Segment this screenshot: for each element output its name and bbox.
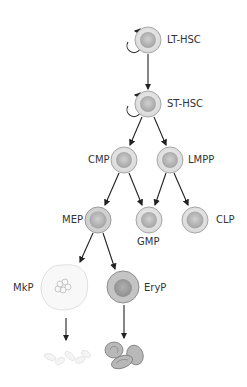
label-gmp: GMP xyxy=(137,236,159,248)
label-mkp: MkP xyxy=(13,282,33,294)
label-cmp: CMP xyxy=(88,154,110,166)
label-lt-hsc: LT-HSC xyxy=(167,34,201,46)
cell-eryp xyxy=(107,271,139,303)
erythrocytes xyxy=(105,342,146,371)
cell-lmpp xyxy=(157,147,183,173)
label-lmpp: LMPP xyxy=(188,154,214,166)
cell-cmp xyxy=(111,147,137,173)
cell-gmp xyxy=(136,207,162,233)
platelets xyxy=(43,349,91,366)
cell-clp xyxy=(182,207,208,233)
cell-mep xyxy=(85,207,111,233)
label-mep: MEP xyxy=(62,214,83,226)
cell-lt-hsc xyxy=(135,27,161,53)
cell-st-hsc xyxy=(135,91,161,117)
label-eryp: EryP xyxy=(144,282,166,294)
label-st-hsc: ST-HSC xyxy=(167,98,203,110)
lineage-diagram xyxy=(0,0,247,387)
label-clp: CLP xyxy=(216,214,235,226)
cell-mkp xyxy=(41,265,88,310)
